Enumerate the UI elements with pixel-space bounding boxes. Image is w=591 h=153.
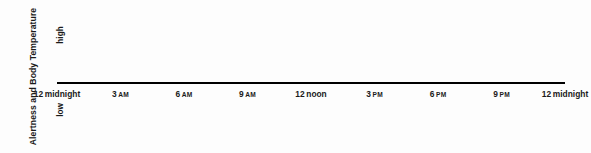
tick-number: 12 [542,89,551,99]
x-axis-tick-label: 9 AM [239,88,256,101]
tick-unit: midnight [45,89,80,99]
tick-number: 9 [493,89,498,99]
x-axis-tick-label: 12 midnight [542,88,588,100]
x-axis-tick-label: 12 midnight [34,88,80,100]
x-axis-tick-label: 3 PM [366,88,383,101]
tick-number: 12 [34,89,43,99]
tick-unit: AM [118,91,129,98]
x-axis-tick-labels: 12 midnight3 AM6 AM9 AM12 noon3 PM6 PM9 … [57,88,565,102]
x-axis-tick-label: 6 PM [430,88,447,101]
tick-number: 3 [366,89,371,99]
tick-unit: noon [306,89,326,99]
y-axis-high-label: high [53,13,67,57]
tick-unit: PM [373,91,383,98]
tick-unit: PM [500,91,510,98]
circadian-rhythm-figure: Alertness and Body Temperature high low … [0,0,591,153]
x-axis-tick-label: 3 AM [112,88,129,101]
time-axis-line [57,82,565,84]
x-axis-tick-label: 6 AM [175,88,192,101]
tick-unit: midnight [553,89,588,99]
tick-number: 12 [295,89,304,99]
tick-number: 6 [175,89,180,99]
tick-unit: AM [182,91,193,98]
tick-number: 3 [112,89,117,99]
tick-number: 9 [239,89,244,99]
tick-number: 6 [430,89,435,99]
x-axis-tick-label: 9 PM [493,88,510,101]
y-axis-title: Alertness and Body Temperature [22,0,44,153]
tick-unit: PM [436,91,446,98]
x-axis-tick-label: 12 noon [295,88,326,100]
tick-unit: AM [245,91,256,98]
